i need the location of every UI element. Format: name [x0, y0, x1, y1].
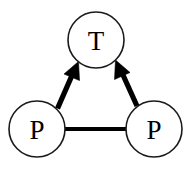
node-label: T	[88, 26, 105, 56]
node-label: P	[29, 115, 44, 145]
node-p-right[interactable]: P	[126, 101, 182, 157]
graph-diagram: T P P	[0, 0, 194, 175]
node-label: P	[146, 115, 161, 145]
edge-arrow-shaft	[58, 77, 72, 109]
edge-arrow-shaft	[123, 75, 137, 106]
node-t-top[interactable]: T	[68, 12, 124, 68]
node-p-left[interactable]: P	[9, 101, 65, 157]
edge-p-right-to-t	[115, 60, 138, 106]
edge-p-left-to-t	[58, 62, 80, 109]
graph-canvas: T P P	[0, 0, 194, 175]
